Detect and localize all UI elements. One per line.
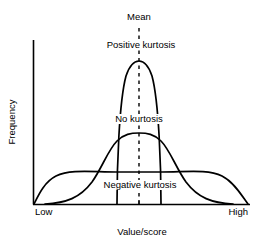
annotation-positive-kurtosis: Positive kurtosis [106, 40, 177, 50]
x-axis-label: Value/score [116, 227, 167, 237]
annotation-no-kurtosis: No kurtosis [114, 114, 164, 124]
y-axis-label: Frequency [7, 99, 17, 146]
annotation-negative-kurtosis: Negative kurtosis [103, 180, 178, 190]
x-axis-tick-high: High [227, 207, 249, 217]
kurtosis-figure: Mean Positive kurtosis No kurtosis Negat… [0, 0, 270, 248]
annotation-mean: Mean [126, 12, 152, 22]
x-axis-tick-low: Low [34, 207, 53, 217]
